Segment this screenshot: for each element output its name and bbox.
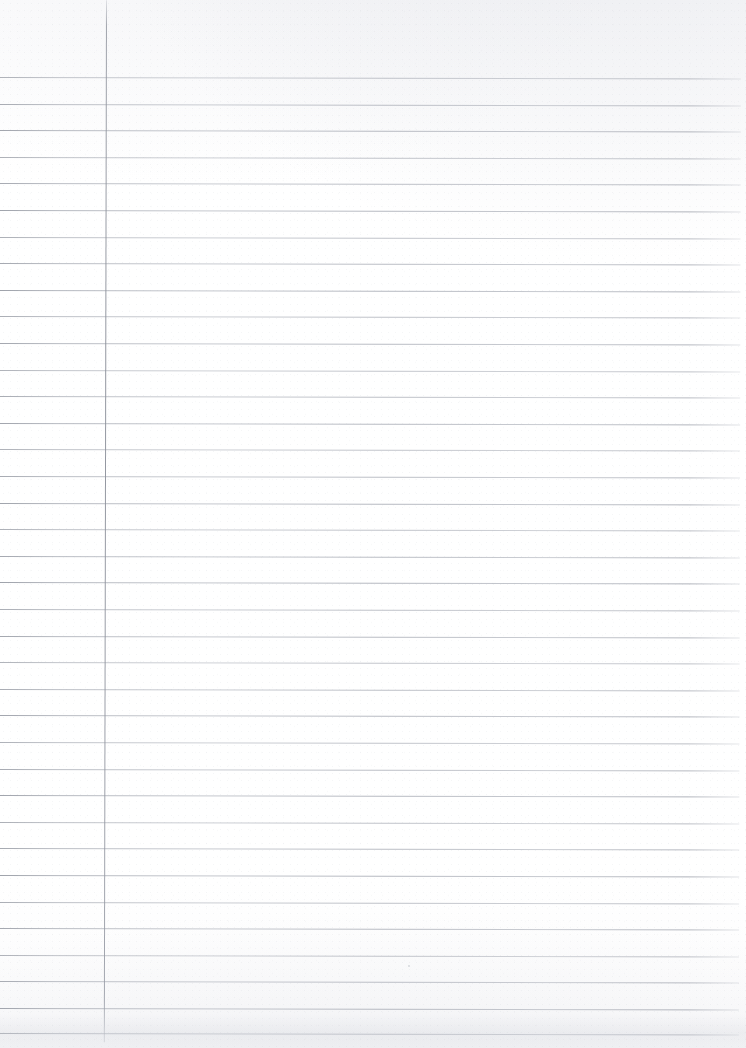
rule-line xyxy=(0,1008,739,1011)
rule-line xyxy=(0,370,740,373)
rule-line xyxy=(0,503,740,506)
rule-line xyxy=(0,316,740,319)
rule-line xyxy=(0,263,740,266)
rule-line xyxy=(0,476,740,479)
scan-speck-artifact xyxy=(408,965,410,967)
ruled-lines-layer xyxy=(0,0,746,1048)
rule-line xyxy=(0,449,740,452)
rule-line xyxy=(0,130,741,133)
rule-line xyxy=(0,769,739,772)
rule-line xyxy=(0,157,741,160)
rule-line xyxy=(0,955,739,958)
rule-line xyxy=(0,848,739,851)
rule-line xyxy=(0,662,740,665)
rule-line xyxy=(0,290,740,293)
rule-line xyxy=(0,981,739,984)
rule-line xyxy=(0,183,741,186)
rule-line xyxy=(0,423,740,426)
rule-line xyxy=(0,795,739,798)
rule-line xyxy=(0,636,740,639)
rule-line xyxy=(0,343,740,346)
rule-line xyxy=(0,556,740,559)
rule-line xyxy=(0,529,740,532)
rule-line xyxy=(0,928,739,931)
scanned-notebook-page xyxy=(0,0,746,1048)
rule-line xyxy=(0,104,741,107)
rule-line xyxy=(0,237,741,240)
rule-line xyxy=(0,1033,739,1036)
rule-line xyxy=(0,582,740,585)
rule-line xyxy=(0,210,741,213)
rule-line xyxy=(0,609,740,612)
rule-line xyxy=(0,875,739,878)
rule-line xyxy=(0,689,740,692)
rule-line xyxy=(0,396,740,399)
rule-line xyxy=(0,77,741,80)
rule-line xyxy=(0,822,739,825)
rule-line xyxy=(0,715,740,718)
rule-line xyxy=(0,742,739,745)
rule-line xyxy=(0,902,739,905)
